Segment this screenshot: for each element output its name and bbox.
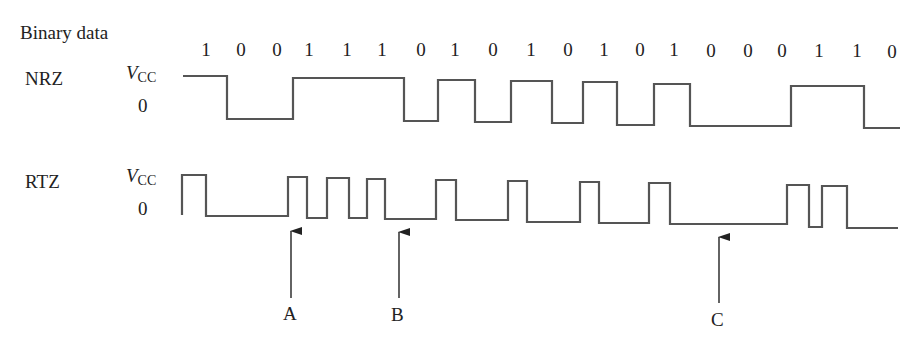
marker-a-label: A: [283, 304, 297, 323]
nrz-rtz-diagram: Binary data 1 0 0 1 1 1 0 1 0 1 0 1 0 1 …: [0, 0, 917, 345]
waveforms: [0, 0, 917, 345]
rtz-waveform: [182, 175, 898, 228]
nrz-waveform: [183, 76, 900, 128]
marker-b-label: B: [391, 305, 404, 324]
marker-c-label: C: [711, 310, 724, 329]
